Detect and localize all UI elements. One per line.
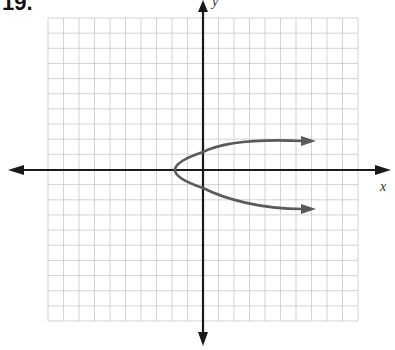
x-axis bbox=[8, 165, 391, 175]
x-axis-right-arrow-icon bbox=[375, 165, 391, 175]
y-axis-bottom-arrow-icon bbox=[198, 332, 208, 346]
y-axis bbox=[198, 0, 208, 346]
upper-branch-arrow-icon bbox=[301, 136, 316, 146]
y-axis-label: y bbox=[210, 0, 219, 9]
lower-branch-arrow-icon bbox=[301, 204, 316, 214]
x-axis-left-arrow-icon bbox=[8, 165, 24, 175]
x-axis-label: x bbox=[379, 179, 387, 194]
coordinate-plane: x y bbox=[0, 0, 395, 350]
y-axis-top-arrow-icon bbox=[198, 0, 208, 12]
parabola-curve bbox=[175, 136, 316, 214]
